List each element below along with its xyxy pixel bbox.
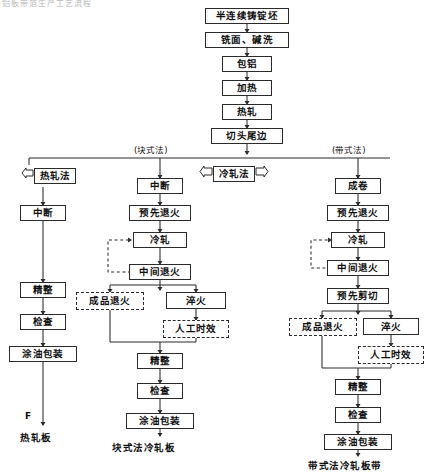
caption-hot-rolled-plate: 热轧板 [20, 430, 52, 444]
node-str-6: 成品退火 [289, 318, 357, 336]
node-blk-5: 成品退火 [76, 292, 144, 310]
node-str-1: 成卷 [335, 178, 381, 194]
node-hot-1: 中断 [20, 205, 66, 221]
arrow-wing-left-icon [199, 165, 213, 183]
node-trunk-2: 铣面、碱洗 [205, 32, 289, 48]
banner-hot-rolling: 热轧法 [22, 165, 76, 187]
node-hot-2: 精整 [20, 282, 66, 298]
caption-strip-cold-rolled-plate: 带式法冷轧板带 [308, 458, 382, 472]
marker-F-label: F [25, 411, 31, 421]
node-str-2: 预先退火 [327, 205, 389, 221]
node-blk-6: 淬火 [166, 292, 226, 309]
arrow-wing-left-icon [21, 167, 34, 185]
node-blk-9: 检查 [137, 383, 183, 399]
node-str-4: 中间退火 [327, 260, 389, 276]
caption-block-cold-rolled-plate: 块式法冷轧板 [112, 440, 175, 454]
node-hot-4: 涂油包装 [9, 346, 77, 362]
node-blk-10: 涂油包装 [126, 413, 194, 429]
banner-cold-rolling-label: 冷轧法 [213, 166, 255, 183]
node-str-7: 淬火 [363, 318, 419, 335]
node-trunk-1: 半连续铸锭坯 [205, 8, 289, 24]
banner-cold-rolling: 冷轧法 [200, 163, 268, 185]
branch-label-block: (块式法) [134, 143, 168, 155]
node-blk-7: 人工时效 [163, 320, 229, 338]
arrow-wing-right-icon [255, 165, 269, 183]
node-str-11: 涂油包装 [324, 434, 392, 450]
node-str-3: 冷轧 [331, 232, 385, 248]
node-blk-2: 预先退火 [129, 205, 191, 221]
node-hot-3: 检查 [20, 314, 66, 330]
node-trunk-5: 热轧 [222, 104, 272, 120]
node-trunk-4: 加热 [222, 80, 272, 96]
node-trunk-3: 包铝 [222, 56, 272, 72]
node-str-5: 预先剪切 [327, 288, 389, 304]
node-str-10: 检查 [335, 407, 381, 423]
node-blk-1: 中断 [137, 178, 183, 194]
node-str-8: 人工时效 [358, 346, 424, 364]
branch-label-strip: (带式法) [332, 143, 366, 155]
node-trunk-6: 切头尾边 [211, 128, 283, 144]
node-blk-8: 精整 [137, 353, 183, 369]
node-blk-4: 中间退火 [129, 264, 191, 280]
node-blk-3: 冷轧 [133, 232, 187, 248]
node-str-9: 精整 [335, 379, 381, 395]
banner-hot-rolling-label: 热轧法 [34, 168, 76, 185]
